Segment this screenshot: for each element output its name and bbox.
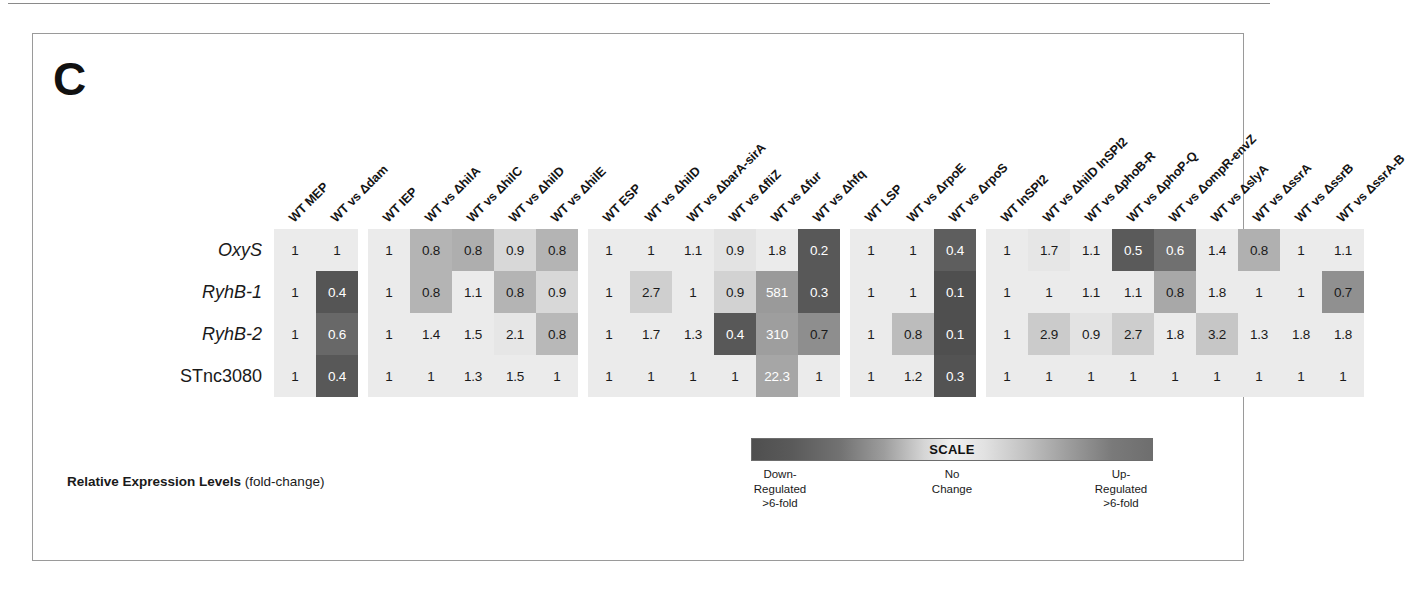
heatmap-cell[interactable]: 1 <box>1028 271 1070 313</box>
heatmap-cell[interactable]: 1.1 <box>452 271 494 313</box>
heatmap-cell[interactable]: 1 <box>1070 355 1112 397</box>
heatmap-cell[interactable]: 1 <box>850 271 892 313</box>
heatmap-cell[interactable]: 1 <box>274 271 316 313</box>
heatmap-cell[interactable]: 0.4 <box>316 355 358 397</box>
heatmap-cell[interactable]: 1.1 <box>1070 271 1112 313</box>
heatmap-cell[interactable]: 0.1 <box>934 313 976 355</box>
heatmap-cell[interactable]: 1.5 <box>452 313 494 355</box>
column-header[interactable]: WT ESP <box>600 181 644 225</box>
heatmap-cell[interactable]: 0.7 <box>1322 271 1364 313</box>
heatmap-cell[interactable]: 1 <box>368 229 410 271</box>
heatmap-cell[interactable]: 0.8 <box>494 271 536 313</box>
heatmap-cell[interactable]: 1 <box>1322 355 1364 397</box>
heatmap-cell[interactable]: 1.4 <box>1196 229 1238 271</box>
heatmap-cell[interactable]: 1 <box>714 355 756 397</box>
heatmap-cell[interactable]: 1 <box>672 271 714 313</box>
heatmap-cell[interactable]: 0.9 <box>1070 313 1112 355</box>
heatmap-cell[interactable]: 1.8 <box>1154 313 1196 355</box>
heatmap-cell[interactable]: 0.8 <box>410 271 452 313</box>
heatmap-cell[interactable]: 310 <box>756 313 798 355</box>
heatmap-cell[interactable]: 1 <box>1280 355 1322 397</box>
heatmap-cell[interactable]: 1.4 <box>410 313 452 355</box>
heatmap-cell[interactable]: 0.4 <box>316 271 358 313</box>
heatmap-cell[interactable]: 1.5 <box>494 355 536 397</box>
heatmap-cell[interactable]: 0.8 <box>1238 229 1280 271</box>
heatmap-cell[interactable]: 1 <box>1280 229 1322 271</box>
heatmap-cell[interactable]: 1 <box>274 313 316 355</box>
heatmap-cell[interactable]: 0.6 <box>316 313 358 355</box>
heatmap-cell[interactable]: 1 <box>274 229 316 271</box>
heatmap-cell[interactable]: 2.1 <box>494 313 536 355</box>
heatmap-cell[interactable]: 1 <box>986 313 1028 355</box>
column-header[interactable]: WT LSP <box>862 182 905 225</box>
heatmap-cell[interactable]: 1.3 <box>1238 313 1280 355</box>
heatmap-cell[interactable]: 581 <box>756 271 798 313</box>
heatmap-cell[interactable]: 1 <box>274 355 316 397</box>
heatmap-cell[interactable]: 1.7 <box>1028 229 1070 271</box>
heatmap-cell[interactable]: 1 <box>986 355 1028 397</box>
heatmap-cell[interactable]: 0.7 <box>798 313 840 355</box>
heatmap-cell[interactable]: 1 <box>410 355 452 397</box>
heatmap-cell[interactable]: 1.8 <box>1196 271 1238 313</box>
heatmap-cell[interactable]: 0.3 <box>798 271 840 313</box>
heatmap-cell[interactable]: 1.1 <box>1070 229 1112 271</box>
heatmap-cell[interactable]: 1 <box>1112 355 1154 397</box>
heatmap-cell[interactable]: 1 <box>798 355 840 397</box>
heatmap-cell[interactable]: 1 <box>630 229 672 271</box>
column-header[interactable]: WT IEP <box>380 185 420 225</box>
heatmap-cell[interactable]: 0.1 <box>934 271 976 313</box>
heatmap-cell[interactable]: 1.1 <box>1322 229 1364 271</box>
column-header[interactable]: WT MEP <box>286 180 331 225</box>
heatmap-cell[interactable]: 1 <box>368 355 410 397</box>
heatmap-cell[interactable]: 1 <box>368 313 410 355</box>
heatmap-cell[interactable]: 1 <box>1196 355 1238 397</box>
heatmap-cell[interactable]: 1.7 <box>630 313 672 355</box>
heatmap-cell[interactable]: 0.8 <box>452 229 494 271</box>
heatmap-cell[interactable]: 1.8 <box>1280 313 1322 355</box>
heatmap-cell[interactable]: 2.7 <box>1112 313 1154 355</box>
heatmap-cell[interactable]: 1 <box>1238 271 1280 313</box>
heatmap-cell[interactable]: 0.8 <box>536 229 578 271</box>
heatmap-cell[interactable]: 0.8 <box>892 313 934 355</box>
heatmap-cell[interactable]: 0.9 <box>714 229 756 271</box>
column-header[interactable]: WT vs ΔbarA-sirA <box>684 141 768 225</box>
heatmap-cell[interactable]: 1 <box>986 229 1028 271</box>
heatmap-cell[interactable]: 1 <box>850 229 892 271</box>
heatmap-cell[interactable]: 1 <box>986 271 1028 313</box>
heatmap-cell[interactable]: 2.7 <box>630 271 672 313</box>
heatmap-cell[interactable]: 0.9 <box>494 229 536 271</box>
heatmap-cell[interactable]: 1.8 <box>1322 313 1364 355</box>
heatmap-cell[interactable]: 1.1 <box>1112 271 1154 313</box>
heatmap-cell[interactable]: 0.3 <box>934 355 976 397</box>
heatmap-cell[interactable]: 1 <box>588 271 630 313</box>
heatmap-cell[interactable]: 1 <box>368 271 410 313</box>
heatmap-cell[interactable]: 1 <box>1238 355 1280 397</box>
heatmap-cell[interactable]: 0.4 <box>934 229 976 271</box>
heatmap-cell[interactable]: 1 <box>1154 355 1196 397</box>
heatmap-cell[interactable]: 3.2 <box>1196 313 1238 355</box>
heatmap-cell[interactable]: 1 <box>630 355 672 397</box>
heatmap-cell[interactable]: 0.9 <box>536 271 578 313</box>
heatmap-cell[interactable]: 2.9 <box>1028 313 1070 355</box>
heatmap-cell[interactable]: 1 <box>588 229 630 271</box>
heatmap-cell[interactable]: 1.8 <box>756 229 798 271</box>
heatmap-cell[interactable]: 1 <box>672 355 714 397</box>
heatmap-cell[interactable]: 22.3 <box>756 355 798 397</box>
heatmap-cell[interactable]: 1 <box>850 355 892 397</box>
heatmap-cell[interactable]: 1 <box>1280 271 1322 313</box>
heatmap-cell[interactable]: 1 <box>892 271 934 313</box>
heatmap-cell[interactable]: 0.8 <box>536 313 578 355</box>
heatmap-cell[interactable]: 1 <box>892 229 934 271</box>
heatmap-cell[interactable]: 0.9 <box>714 271 756 313</box>
heatmap-cell[interactable]: 0.6 <box>1154 229 1196 271</box>
heatmap-cell[interactable]: 1 <box>1028 355 1070 397</box>
heatmap-cell[interactable]: 0.2 <box>798 229 840 271</box>
heatmap-cell[interactable]: 1 <box>536 355 578 397</box>
heatmap-cell[interactable]: 1.2 <box>892 355 934 397</box>
heatmap-cell[interactable]: 0.8 <box>1154 271 1196 313</box>
heatmap-cell[interactable]: 1 <box>588 313 630 355</box>
heatmap-cell[interactable]: 0.4 <box>714 313 756 355</box>
heatmap-cell[interactable]: 1.3 <box>672 313 714 355</box>
heatmap-cell[interactable]: 1 <box>588 355 630 397</box>
heatmap-cell[interactable]: 1 <box>316 229 358 271</box>
